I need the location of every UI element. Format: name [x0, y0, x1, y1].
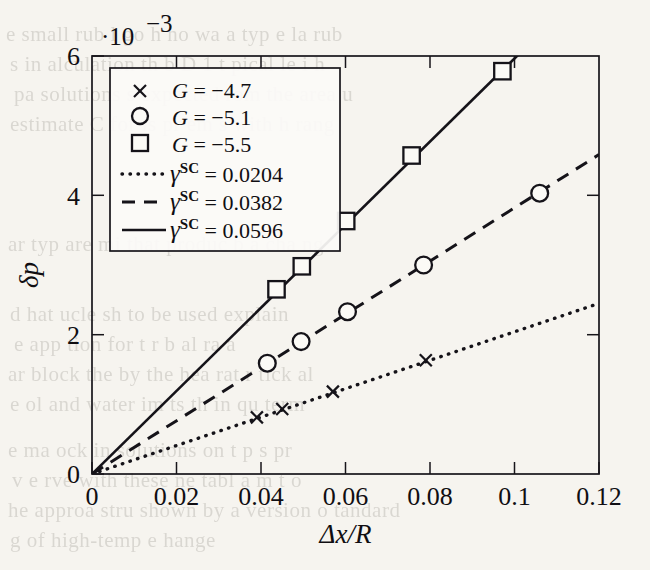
x-tick-label: 0.1	[498, 482, 531, 511]
legend-label: G = −5.1	[172, 105, 251, 130]
chart-svg: 0 0.02 0.04 0.06 0.08 0.1 0.12 0 2 4 6 ·…	[0, 0, 650, 570]
y-multiplier-base: ·10	[101, 23, 134, 50]
y-tick-label: 6	[67, 42, 80, 71]
circle-icon	[132, 108, 148, 124]
y-tick-label: 0	[67, 460, 80, 489]
y-tick-label: 4	[67, 182, 80, 211]
y-axis-title: δp	[14, 262, 44, 288]
y-axis-multiplier: ·10 −3	[101, 10, 173, 50]
square-icon	[132, 135, 148, 151]
y-multiplier-exponent: −3	[146, 10, 173, 37]
x-tick-label: 0	[86, 482, 99, 511]
x-tick-label: 0.08	[407, 482, 453, 511]
y-tick-label: 2	[67, 321, 80, 350]
x-tick-label: 0.12	[576, 482, 622, 511]
chart-legend: G = −4.7 G = −5.1 G = −5.5 γSC = 0.0204 …	[110, 68, 340, 251]
fit-line-dotted	[92, 303, 599, 474]
x-tick-label: 0.02	[154, 482, 200, 511]
x-tick-label: 0.06	[323, 482, 369, 511]
x-axis-title: Δx/R	[319, 519, 372, 549]
x-tick-label: 0.04	[238, 482, 284, 511]
legend-label: G = −4.7	[172, 78, 251, 103]
legend-label: G = −5.5	[172, 132, 251, 157]
figure-container: 0 0.02 0.04 0.06 0.08 0.1 0.12 0 2 4 6 ·…	[0, 0, 650, 570]
